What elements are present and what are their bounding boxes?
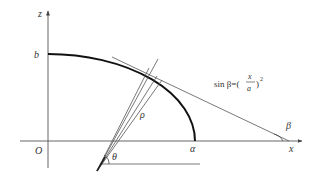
diagram-svg: z x O b α θ β ρ sin β=( x a ) 2 xyxy=(0,0,311,178)
theta-label: θ xyxy=(112,151,117,162)
diagram-canvas: z x O b α θ β ρ sin β=( x a ) 2 xyxy=(0,0,311,178)
formula-suffix: ) xyxy=(256,79,259,89)
z-label: z xyxy=(37,8,42,19)
x-label: x xyxy=(288,143,294,154)
formula-exponent: 2 xyxy=(260,76,263,82)
tangent-line xyxy=(112,57,289,141)
formula: sin β=( x a ) 2 xyxy=(214,72,263,93)
origin-label: O xyxy=(35,145,42,156)
ellipse-curve xyxy=(48,54,195,141)
formula-prefix: sin β=( xyxy=(214,79,239,89)
rho-label: ρ xyxy=(139,109,145,120)
b-label: b xyxy=(34,49,39,60)
a-label: α xyxy=(190,143,196,154)
formula-numerator: x xyxy=(247,72,252,81)
ray-1 xyxy=(97,59,158,171)
beta-label: β xyxy=(285,120,291,131)
formula-denominator: a xyxy=(247,84,251,93)
